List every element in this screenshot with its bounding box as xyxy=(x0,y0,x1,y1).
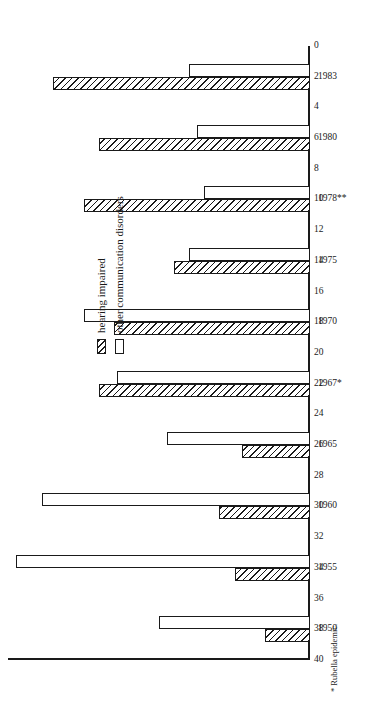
value-tick-label: 10 xyxy=(314,195,324,205)
bar-chart: 19501955196019651967*197019751978**19801… xyxy=(0,0,372,706)
bar xyxy=(114,322,310,335)
value-tick-label: 0 xyxy=(314,41,319,51)
bar-group xyxy=(8,230,310,291)
value-tick-label: 6 xyxy=(314,133,319,143)
bar xyxy=(189,64,310,77)
bar-group xyxy=(8,169,310,230)
value-tick-label: 38 xyxy=(314,625,324,635)
bar xyxy=(219,506,310,519)
value-tick-label: 4 xyxy=(314,103,319,113)
bar xyxy=(174,261,310,274)
value-tick-label: 36 xyxy=(314,594,324,604)
value-tick-label: 28 xyxy=(314,471,324,481)
bar-group xyxy=(8,353,310,414)
bar xyxy=(204,186,310,199)
legend-item-other-communication-disorders: other communication disorders xyxy=(114,196,125,354)
value-tick-label: 8 xyxy=(314,164,319,174)
bar-group xyxy=(8,292,310,353)
chart-legend: hearing impaired other communication dis… xyxy=(96,196,125,354)
value-tick-label: 16 xyxy=(314,287,324,297)
bar xyxy=(117,371,310,384)
bar-group xyxy=(8,46,310,107)
value-tick-label: 34 xyxy=(314,563,324,573)
bar xyxy=(99,384,310,397)
value-tick-label: 2 xyxy=(314,72,319,82)
legend-swatch-open-icon xyxy=(115,339,124,354)
value-tick-label: 18 xyxy=(314,318,324,328)
legend-label-hearing-impaired: hearing impaired xyxy=(96,258,107,333)
value-tick-label: 26 xyxy=(314,440,324,450)
value-tick-label: 32 xyxy=(314,532,324,542)
value-axis: 4038363432302826242220181614121086420 xyxy=(312,46,354,660)
bar xyxy=(42,493,310,506)
bar-groups xyxy=(8,46,310,660)
bar xyxy=(53,77,310,90)
bar xyxy=(16,555,310,568)
bar xyxy=(99,138,310,151)
value-tick-label: 14 xyxy=(314,256,324,266)
value-tick-label: 20 xyxy=(314,348,324,358)
bar xyxy=(189,248,310,261)
footnote-rubella-epidemic: * Rubella epidemic. xyxy=(330,624,340,692)
value-tick-label: 30 xyxy=(314,502,324,512)
legend-item-hearing-impaired: hearing impaired xyxy=(96,196,107,354)
bar xyxy=(235,568,311,581)
value-tick-label: 40 xyxy=(314,655,324,665)
bar xyxy=(159,616,310,629)
rotated-chart-wrapper: 19501955196019651967*197019751978**19801… xyxy=(0,0,372,706)
value-tick-label: 12 xyxy=(314,225,324,235)
bar xyxy=(167,432,310,445)
bar-group xyxy=(8,414,310,475)
bar-group xyxy=(8,599,310,660)
chart-page: 19501955196019651967*197019751978**19801… xyxy=(0,0,372,706)
bar xyxy=(197,125,310,138)
bar xyxy=(265,629,310,642)
legend-label-other-communication-disorders: other communication disorders xyxy=(114,196,125,333)
chart-footnotes: * Rubella epidemic. xyxy=(330,624,340,692)
value-tick-label: 24 xyxy=(314,410,324,420)
bar xyxy=(242,445,310,458)
legend-swatch-hatched-icon xyxy=(97,339,106,354)
bar-group xyxy=(8,537,310,598)
value-tick-label: 22 xyxy=(314,379,324,389)
bar-group xyxy=(8,107,310,168)
bar-group xyxy=(8,476,310,537)
